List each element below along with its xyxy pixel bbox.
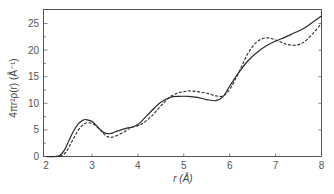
x-tick-label: 8 [319,160,325,171]
y-tick-label: 25 [28,18,40,29]
rdf-chart: 2345678 0510152025 r (Å) 4πr²ρ(r) (Å⁻¹) [0,0,334,194]
y-tick-label: 20 [28,45,40,56]
plot-frame [44,10,322,157]
y-tick-label: 15 [28,71,40,82]
x-tick-label: 2 [43,160,49,171]
y-tick-label: 5 [33,124,39,135]
x-tick-label: 7 [273,160,279,171]
y-axis-label: 4πr²ρ(r) (Å⁻¹) [7,58,19,117]
y-tick-label: 10 [28,98,40,109]
series-line-dashed [46,24,322,157]
series-line-solid [46,16,322,157]
x-tick-label: 4 [135,160,141,171]
x-tick-label: 5 [181,160,187,171]
series-layer [46,16,322,157]
x-tick-label: 6 [227,160,233,171]
x-tick-label: 3 [89,160,95,171]
x-axis-label: r (Å) [173,172,192,184]
y-tick-label: 0 [33,151,39,162]
